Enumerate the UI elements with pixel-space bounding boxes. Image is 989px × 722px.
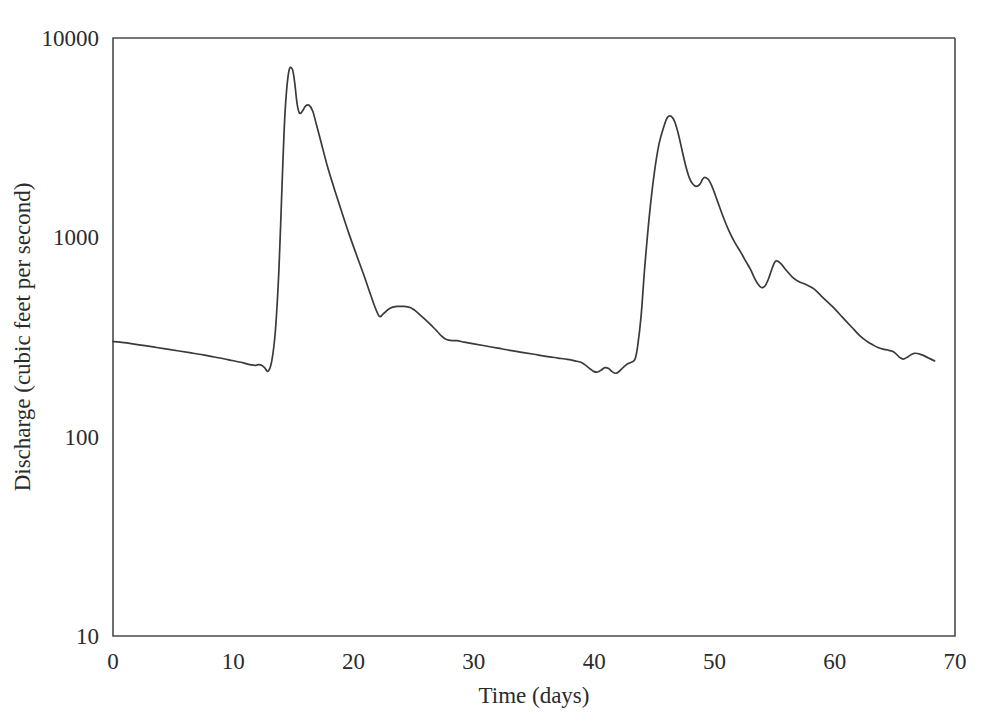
chart-page: 010203040506070 10100100010000 Time (day… xyxy=(0,0,989,722)
x-tick-label: 30 xyxy=(462,649,485,674)
x-tick-label: 70 xyxy=(944,649,967,674)
y-tick-label: 100 xyxy=(65,425,100,450)
y-tick-label: 10 xyxy=(76,624,99,649)
x-tick-label: 0 xyxy=(107,649,119,674)
x-axis-title: Time (days) xyxy=(479,683,590,708)
x-tick-label: 20 xyxy=(342,649,365,674)
x-tick-label: 60 xyxy=(823,649,846,674)
x-tick-label: 10 xyxy=(222,649,245,674)
chart-background xyxy=(0,0,989,722)
y-tick-label: 1000 xyxy=(53,225,99,250)
discharge-hydrograph-chart: 010203040506070 10100100010000 Time (day… xyxy=(0,0,989,722)
y-tick-label: 10000 xyxy=(42,26,100,51)
y-axis-title: Discharge (cubic feet per second) xyxy=(10,183,35,492)
x-tick-label: 40 xyxy=(583,649,606,674)
x-tick-label: 50 xyxy=(703,649,726,674)
